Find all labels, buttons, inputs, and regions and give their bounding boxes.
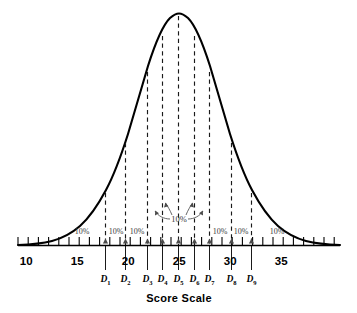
band-pct-label-4: 10% bbox=[213, 227, 228, 236]
x-tick-label-20: 20 bbox=[122, 255, 135, 267]
band-pct-label-5: 10% bbox=[234, 227, 249, 236]
x-tick-label-10: 10 bbox=[20, 255, 33, 267]
band-pct-label-1: 10% bbox=[75, 227, 90, 236]
band-pct-label-2: 10% bbox=[109, 227, 124, 236]
decile-label-d1: D1 bbox=[99, 274, 110, 286]
decile-label-d4: D4 bbox=[156, 274, 168, 286]
decile-label-d9: D9 bbox=[245, 274, 257, 286]
chart-svg: 10 15 20 25 30 35 10% 10% 10% 10% 10% 10… bbox=[0, 0, 357, 313]
center-pct-label: 10% bbox=[171, 214, 187, 224]
x-axis-tick-labels: 10 15 20 25 30 35 bbox=[20, 255, 288, 267]
x-axis-title: Score Scale bbox=[146, 292, 212, 304]
decile-label-d8: D8 bbox=[225, 274, 237, 286]
x-tick-label-25: 25 bbox=[173, 255, 186, 267]
decile-label-d5: D5 bbox=[172, 274, 184, 286]
decile-label-d7: D7 bbox=[203, 274, 215, 286]
decile-label-d3: D3 bbox=[141, 274, 153, 286]
decile-label-d6: D6 bbox=[188, 274, 200, 286]
band-percent-labels: 10% 10% 10% 10% 10% 10% bbox=[75, 227, 285, 236]
decile-axis-markers bbox=[103, 239, 254, 244]
x-tick-label-35: 35 bbox=[275, 255, 288, 267]
band-pct-label-6: 10% bbox=[270, 227, 285, 236]
decile-label-d2: D2 bbox=[119, 274, 130, 286]
band-pct-label-3: 10% bbox=[130, 227, 145, 236]
x-tick-label-15: 15 bbox=[71, 255, 84, 267]
decile-labels-group: D1 D2 D3 D4 D5 D6 D7 D8 D9 bbox=[99, 274, 257, 286]
normal-distribution-decile-chart: 10 15 20 25 30 35 10% 10% 10% 10% 10% 10… bbox=[0, 0, 357, 313]
x-axis-minor-ticks bbox=[18, 237, 334, 246]
x-tick-label-30: 30 bbox=[224, 255, 237, 267]
